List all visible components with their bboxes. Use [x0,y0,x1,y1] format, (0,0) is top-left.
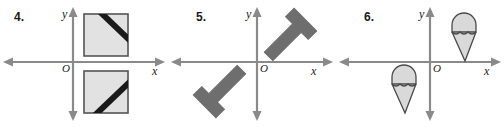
scoop-lower [392,65,416,84]
figure-panel-4: 4. y x O [0,0,168,127]
figure-panel-5: 5. y x O [168,0,336,127]
shapes-group-6 [336,0,504,127]
cone-lower-left [392,65,416,113]
square-upper-right [84,8,140,56]
figure-panel-6: 6. y x O [336,0,504,127]
tee-upper-right [257,8,316,67]
cone-upper [452,32,476,61]
scoop-upper [452,13,476,32]
shapes-group-5 [168,0,336,127]
cone-upper-right [452,13,476,61]
cone-lower [392,84,416,113]
worksheet-figures: 4. y x O [0,0,504,127]
square-lower-right [84,71,136,118]
shapes-group-4 [0,0,168,127]
tee-lower-left [193,58,252,117]
